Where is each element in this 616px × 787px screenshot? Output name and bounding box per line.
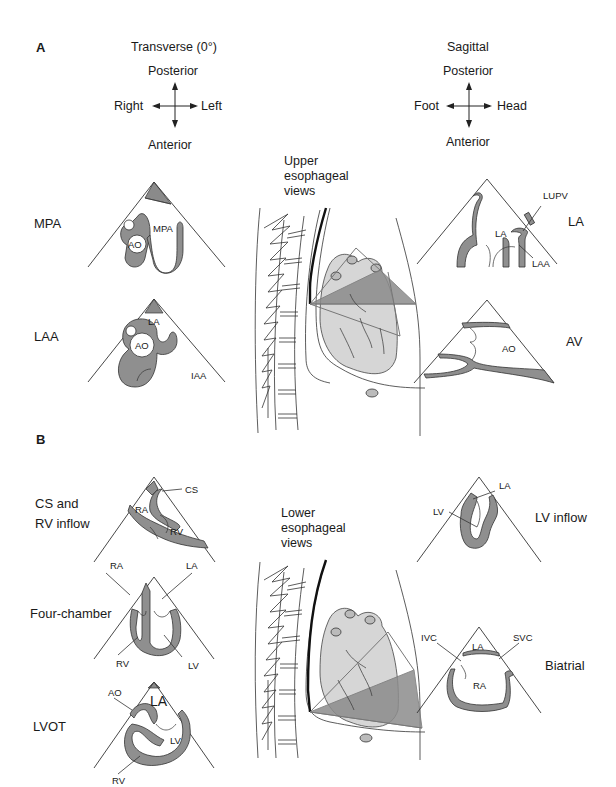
lower-esophageal-thorax-illustration [250, 560, 430, 760]
lvot-label-lv: LV [170, 735, 182, 746]
laa-label-ao: AO [135, 340, 149, 351]
cs-label-cs: CS [185, 484, 198, 495]
view-label-lvot: LVOT [33, 718, 66, 736]
view-label-laa: LAA [34, 328, 59, 346]
biatrial-label-ra: RA [473, 680, 487, 691]
cs-label-ra: RA [135, 504, 149, 515]
mpa-label-mpa: MPA [153, 223, 174, 234]
av-label-ao: AO [502, 343, 516, 354]
laa-label-la: LA [148, 316, 160, 327]
lvot-label-la: LA [150, 693, 168, 709]
cs-rv-inflow-sector-diagram: CS RA RV [92, 475, 222, 565]
cs-label-rv: RV [170, 526, 184, 537]
lower-esophageal-caption: Lower esophageal views [281, 506, 346, 551]
sagittal-posterior-label: Posterior [443, 63, 493, 79]
four-chamber-label-lv: LV [188, 660, 200, 671]
sagittal-foot-label: Foot [414, 98, 439, 114]
sagittal-compass-arrows-icon [444, 80, 494, 130]
biatrial-label-la: LA [472, 641, 484, 652]
lv-inflow-label-lv: LV [433, 506, 445, 517]
transverse-anterior-label: Anterior [148, 137, 192, 153]
four-chamber-label-la: LA [186, 560, 198, 571]
av-sector-diagram: AO [412, 298, 562, 388]
la-label-laa: LAA [532, 258, 551, 269]
panel-a-letter: A [36, 40, 45, 55]
panel-b-letter: B [36, 432, 45, 447]
transverse-compass-arrows-icon [150, 80, 200, 130]
la-label-lupv: LUPV [543, 190, 568, 201]
la-sagittal-sector-diagram: LUPV LA LAA [415, 175, 565, 275]
view-label-la: LA [568, 213, 584, 231]
laa-label-iaa: IAA [191, 370, 207, 381]
upper-esophageal-caption: Upper esophageal views [284, 154, 349, 199]
view-label-cs-rv-inflow: CS and RV inflow [35, 494, 90, 534]
four-chamber-label-ra: RA [110, 560, 124, 571]
upper-esophageal-thorax-illustration [250, 208, 430, 438]
biatrial-label-ivc: IVC [421, 632, 437, 643]
view-label-av: AV [566, 333, 582, 351]
lvot-sector-diagram: AO LA LV RV [92, 680, 222, 785]
biatrial-label-svc: SVC [513, 632, 533, 643]
lv-inflow-sector-diagram: LA LV [415, 475, 545, 565]
sagittal-title: Sagittal [447, 39, 489, 55]
biatrial-sector-diagram: IVC LA SVC RA [415, 625, 545, 715]
mpa-sector-diagram: AO MPA [85, 180, 235, 270]
lvot-label-ao: AO [108, 687, 122, 698]
transverse-title: Transverse (0°) [131, 39, 217, 55]
view-label-biatrial: Biatrial [545, 657, 585, 675]
view-label-mpa: MPA [34, 215, 61, 233]
transverse-right-label: Right [114, 98, 143, 114]
sagittal-head-label: Head [497, 98, 527, 114]
laa-sector-diagram: AO LA IAA [85, 297, 235, 397]
transverse-posterior-label: Posterior [148, 63, 198, 79]
la-label-la: LA [495, 228, 507, 239]
transverse-left-label: Left [201, 98, 222, 114]
sagittal-anterior-label: Anterior [446, 134, 490, 150]
four-chamber-sector-diagram: RA LA RV LV [92, 575, 222, 665]
lv-inflow-label-la: LA [499, 480, 511, 491]
four-chamber-label-rv: RV [116, 658, 130, 669]
mpa-label-ao: AO [128, 239, 142, 250]
lvot-label-rv: RV [112, 775, 126, 786]
